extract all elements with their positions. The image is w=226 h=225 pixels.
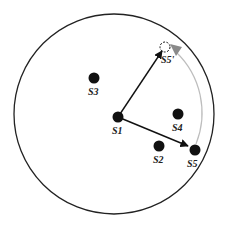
arrow-s1-to-s5-prime — [118, 51, 162, 117]
node-s4-label: S4 — [172, 122, 183, 133]
node-s4: S4 — [172, 109, 184, 134]
diagram-canvas: S1 S2 S3 S4 S5 S5' — [0, 0, 226, 225]
node-s1-label: S1 — [112, 125, 123, 136]
node-s5-prime-ghost — [160, 42, 170, 52]
node-s5-prime-label: S5' — [161, 54, 175, 65]
node-s2: S2 — [153, 141, 165, 166]
node-s5: S5 — [187, 145, 201, 170]
node-s3-label: S3 — [88, 86, 99, 97]
node-s3: S3 — [88, 73, 100, 98]
node-s5-label: S5 — [187, 158, 198, 169]
node-s1: S1 — [112, 112, 124, 137]
node-s2-label: S2 — [153, 154, 164, 165]
